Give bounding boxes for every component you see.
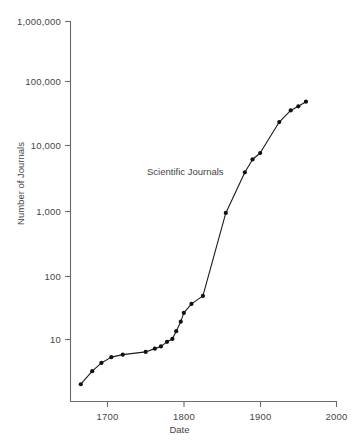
data-point bbox=[79, 382, 83, 386]
data-point bbox=[179, 320, 183, 324]
data-point bbox=[224, 211, 228, 215]
data-point bbox=[159, 344, 163, 348]
x-tick-label-1700: 1700 bbox=[97, 411, 119, 422]
data-point bbox=[304, 100, 308, 104]
data-point bbox=[258, 151, 262, 155]
data-point bbox=[109, 355, 113, 359]
series-annotation-label: Scientific Journals bbox=[147, 166, 224, 177]
y-tick-label-10000: 10,000 bbox=[0, 140, 61, 151]
x-axis-title: Date bbox=[0, 424, 359, 435]
data-point bbox=[121, 353, 125, 357]
data-point bbox=[170, 337, 174, 341]
data-point bbox=[289, 108, 293, 112]
x-tick-label-1900: 1900 bbox=[250, 411, 272, 422]
x-tick-label-2000: 2000 bbox=[326, 411, 348, 422]
y-axis-title: Number of Journals bbox=[15, 114, 26, 254]
series-markers-scientific-journals bbox=[79, 100, 308, 387]
data-point bbox=[182, 311, 186, 315]
data-point bbox=[144, 350, 148, 354]
plot-area bbox=[0, 0, 359, 441]
data-point bbox=[243, 170, 247, 174]
data-point bbox=[201, 294, 205, 298]
data-point bbox=[250, 157, 254, 161]
data-point bbox=[277, 120, 281, 124]
data-point bbox=[90, 369, 94, 373]
y-tick-label-1000000: 1,000,000 bbox=[0, 16, 61, 27]
data-point bbox=[99, 361, 103, 365]
data-point bbox=[174, 329, 178, 333]
data-point bbox=[296, 104, 300, 108]
x-tick-label-1800: 1800 bbox=[173, 411, 195, 422]
data-point bbox=[153, 347, 157, 351]
chart-container: 1,000,000 100,000 10,000 1,000 100 10 17… bbox=[0, 0, 359, 441]
y-tick-label-100000: 100,000 bbox=[0, 76, 61, 87]
data-point bbox=[165, 340, 169, 344]
y-tick-label-1000: 1,000 bbox=[0, 206, 61, 217]
y-tick-label-100: 100 bbox=[0, 271, 61, 282]
y-tick-label-10: 10 bbox=[0, 334, 61, 345]
x-tick-marks bbox=[108, 402, 337, 408]
data-point bbox=[189, 302, 193, 306]
series-line-scientific-journals bbox=[81, 102, 306, 385]
y-tick-marks bbox=[65, 22, 71, 340]
